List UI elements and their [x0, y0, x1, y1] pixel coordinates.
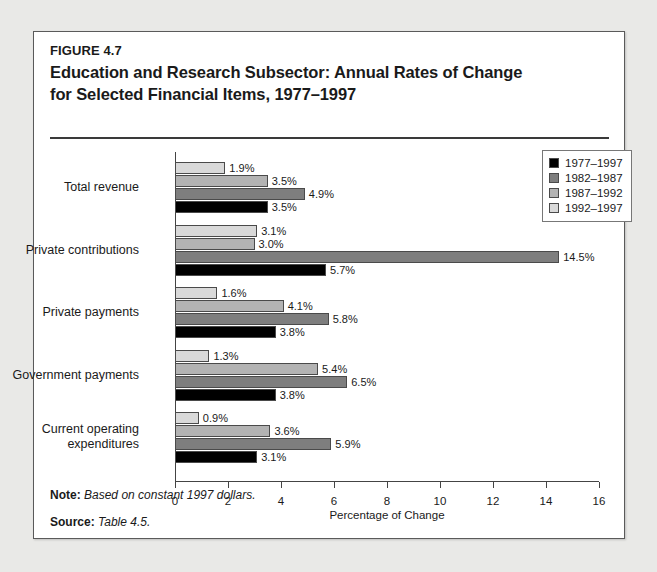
bar-row: 3.8%	[175, 326, 599, 338]
bar	[175, 363, 318, 375]
bar	[175, 300, 284, 312]
figure-number: FIGURE 4.7	[50, 42, 610, 59]
bar	[175, 188, 305, 200]
bar-value-label: 3.0%	[255, 238, 284, 250]
legend-label: 1992–1997	[565, 202, 623, 214]
figure-title-line-1: Education and Research Subsector: Annual…	[50, 61, 610, 83]
bar-row: 6.5%	[175, 376, 599, 388]
bar-value-label: 3.6%	[270, 425, 299, 437]
note-label: Note:	[50, 488, 81, 502]
source-text: Table 4.5.	[98, 515, 150, 529]
figure-header: FIGURE 4.7 Education and Research Subsec…	[50, 42, 610, 105]
bar-value-label: 3.8%	[276, 326, 305, 338]
bar	[175, 264, 326, 276]
bar-row: 4.1%	[175, 300, 599, 312]
bar-value-label: 3.8%	[276, 389, 305, 401]
bar-group: Government payments1.3%5.4%6.5%3.8%	[175, 350, 599, 402]
note-text: Based on constant 1997 dollars.	[84, 488, 255, 502]
category-label: Total revenue	[0, 180, 139, 195]
legend-label: 1977–1997	[565, 157, 623, 169]
footnotes: Note: Based on constant 1997 dollars. So…	[50, 487, 610, 541]
bar	[175, 201, 268, 213]
legend-item: 1992–1997	[549, 201, 623, 215]
bar-row: 3.0%	[175, 238, 599, 250]
legend-swatch-icon	[549, 203, 559, 213]
legend-swatch-icon	[549, 188, 559, 198]
bar	[175, 451, 257, 463]
bar-value-label: 3.5%	[268, 201, 297, 213]
legend-item: 1977–1997	[549, 156, 623, 170]
bar-value-label: 1.3%	[209, 350, 238, 362]
bar	[175, 175, 268, 187]
bar	[175, 425, 270, 437]
category-label: Private payments	[0, 305, 139, 320]
source-label: Source:	[50, 515, 95, 529]
bar-row: 4.9%	[175, 188, 599, 200]
bar-group: Total revenue1.9%3.5%4.9%3.5%	[175, 162, 599, 214]
bar-row: 3.5%	[175, 175, 599, 187]
bar-value-label: 14.5%	[559, 251, 594, 263]
plot-area: 0246810121416 Total revenue1.9%3.5%4.9%3…	[175, 152, 599, 482]
bar-row: 3.1%	[175, 451, 599, 463]
legend-item: 1987–1992	[549, 186, 623, 200]
bar	[175, 313, 329, 325]
bar-row: 1.9%	[175, 162, 599, 174]
bar-value-label: 4.1%	[284, 300, 313, 312]
legend-swatch-icon	[549, 158, 559, 168]
bar-row: 5.7%	[175, 264, 599, 276]
source-footnote: Source: Table 4.5.	[50, 514, 610, 530]
bar-value-label: 5.7%	[326, 264, 355, 276]
bar-value-label: 5.9%	[331, 438, 360, 450]
bar	[175, 350, 209, 362]
bar-value-label: 1.9%	[225, 162, 254, 174]
figure-panel: FIGURE 4.7 Education and Research Subsec…	[33, 31, 625, 539]
bar-value-label: 1.6%	[217, 287, 246, 299]
bar	[175, 412, 199, 424]
legend-label: 1982–1987	[565, 172, 623, 184]
legend-item: 1982–1987	[549, 171, 623, 185]
bar-row: 0.9%	[175, 412, 599, 424]
bar-row: 14.5%	[175, 251, 599, 263]
bar-value-label: 3.5%	[268, 175, 297, 187]
bar-row: 5.9%	[175, 438, 599, 450]
bar-value-label: 4.9%	[305, 188, 334, 200]
figure-title-line-2: for Selected Financial Items, 1977–1997	[50, 83, 610, 105]
bar-row: 3.5%	[175, 201, 599, 213]
bar	[175, 238, 255, 250]
bar	[175, 389, 276, 401]
page-title: Education and Research Subsector: Annual…	[50, 61, 610, 105]
bar-row: 3.6%	[175, 425, 599, 437]
bar	[175, 251, 559, 263]
bar-value-label: 5.8%	[329, 313, 358, 325]
title-divider	[50, 137, 609, 139]
bar-chart: 0246810121416 Total revenue1.9%3.5%4.9%3…	[34, 144, 626, 494]
bar-row: 1.6%	[175, 287, 599, 299]
bar	[175, 438, 331, 450]
bar-value-label: 3.1%	[257, 225, 286, 237]
bar	[175, 225, 257, 237]
bar-group: Current operatingexpenditures0.9%3.6%5.9…	[175, 412, 599, 464]
bar-row: 5.8%	[175, 313, 599, 325]
bar-value-label: 6.5%	[347, 376, 376, 388]
bar-value-label: 0.9%	[199, 412, 228, 424]
bar-row: 3.8%	[175, 389, 599, 401]
category-label: Current operatingexpenditures	[0, 422, 139, 452]
bar	[175, 376, 347, 388]
chart-legend: 1977–19971982–19871987–19921992–1997	[542, 150, 632, 222]
bar-group: Private contributions3.1%3.0%14.5%5.7%	[175, 225, 599, 277]
bar	[175, 287, 217, 299]
legend-label: 1987–1992	[565, 187, 623, 199]
category-label: Government payments	[0, 368, 139, 383]
legend-swatch-icon	[549, 173, 559, 183]
bar-row: 3.1%	[175, 225, 599, 237]
bar-value-label: 3.1%	[257, 451, 286, 463]
category-label: Private contributions	[0, 243, 139, 258]
bar	[175, 326, 276, 338]
bar-group: Private payments1.6%4.1%5.8%3.8%	[175, 287, 599, 339]
note-footnote: Note: Based on constant 1997 dollars.	[50, 487, 610, 503]
bar	[175, 162, 225, 174]
bar-row: 1.3%	[175, 350, 599, 362]
bar-value-label: 5.4%	[318, 363, 347, 375]
bar-row: 5.4%	[175, 363, 599, 375]
